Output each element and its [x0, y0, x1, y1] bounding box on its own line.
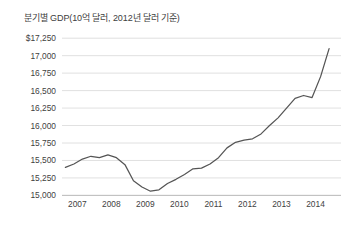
x-axis-tick-label: 2011	[204, 199, 222, 209]
y-axis-tick-label: 15,250	[30, 173, 56, 183]
y-axis-tick-label: 16,500	[30, 86, 56, 96]
quarterly-gdp-chart: 분기별 GDP(10억 달러, 2012년 달러 기준) $17,25017,0…	[0, 0, 345, 228]
x-axis-tick-label: 2013	[272, 199, 291, 209]
x-axis-tick-label: 2010	[170, 199, 189, 209]
gridlines	[62, 38, 341, 195]
gdp-line-series	[65, 49, 329, 192]
x-axis-tick-label: 2009	[136, 199, 155, 209]
y-axis-tick-label: 16,000	[30, 121, 56, 131]
y-axis-tick-label: 15,000	[30, 190, 56, 200]
x-axis-tick-label: 2008	[102, 199, 121, 209]
y-axis-tick-label: 15,500	[30, 155, 56, 165]
chart-plot-area: $17,25017,00016,75016,50016,25016,00015,…	[0, 0, 345, 228]
x-axis-tick-label: 2007	[68, 199, 87, 209]
y-axis-tick-label: $17,250	[26, 33, 57, 43]
x-axis-tick-labels: 20072008200920102011201220132014	[68, 199, 325, 209]
y-axis-tick-labels: $17,25017,00016,75016,50016,25016,00015,…	[26, 33, 57, 200]
x-axis-tick-label: 2012	[238, 199, 257, 209]
y-axis-tick-label: 16,250	[30, 103, 56, 113]
x-axis-tick-label: 2014	[306, 199, 325, 209]
y-axis-tick-label: 16,750	[30, 68, 56, 78]
y-axis-tick-label: 15,750	[30, 138, 56, 148]
y-axis-tick-label: 17,000	[30, 51, 56, 61]
